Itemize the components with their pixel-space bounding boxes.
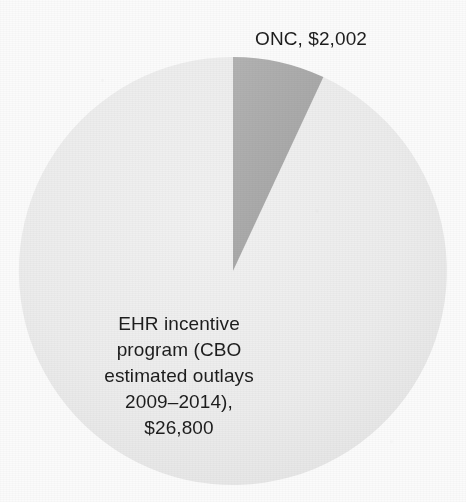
pie-label-ehr-incentive-program: EHR incentive program (CBO estimated out… [60, 311, 298, 441]
pie-label-onc: ONC, $2,002 [0, 26, 466, 52]
pie-chart-figure: ONC, $2,002 EHR incentive program (CBO e… [0, 0, 466, 502]
